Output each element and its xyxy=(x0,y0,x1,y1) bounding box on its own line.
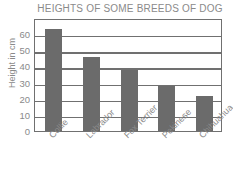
y-tick-label: 0 xyxy=(6,127,30,136)
y-tick-label: 40 xyxy=(6,62,30,71)
gridline xyxy=(35,36,221,37)
plot-area xyxy=(34,19,222,132)
y-tick-label: 20 xyxy=(6,95,30,104)
y-tick-label: 10 xyxy=(6,111,30,120)
bar xyxy=(45,29,62,131)
y-tick-label: 60 xyxy=(6,30,30,39)
y-tick-label: 50 xyxy=(6,46,30,55)
bar-chart: HEIGHTS OF SOME BREEDS OF DOG Height in … xyxy=(0,0,233,189)
gridline xyxy=(35,52,221,53)
y-tick-label: 30 xyxy=(6,79,30,88)
x-axis-tick-labels: CollieLabradorFox TerrierPekineseChihuah… xyxy=(34,133,222,189)
chart-title: HEIGHTS OF SOME BREEDS OF DOG xyxy=(30,3,230,15)
